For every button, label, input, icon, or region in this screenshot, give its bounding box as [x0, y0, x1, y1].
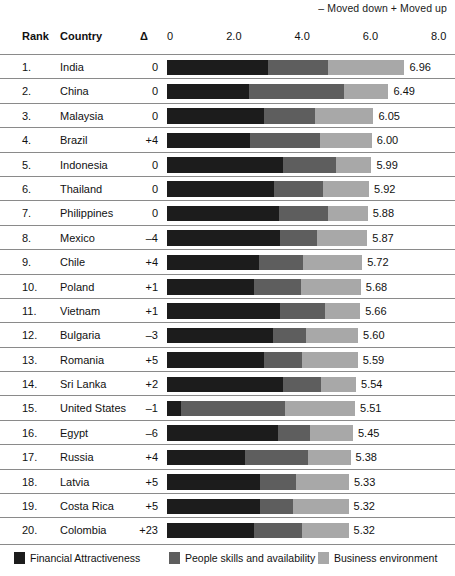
row-value: 5.45 [358, 427, 379, 439]
table-row[interactable]: 5.Indonesia05.99 [0, 152, 455, 176]
stacked-bar[interactable] [167, 352, 358, 368]
bar-segment-3 [320, 133, 372, 149]
bar-segment-2 [254, 279, 301, 295]
row-value: 5.33 [354, 476, 375, 488]
table-row[interactable]: 18.Latvia+55.33 [0, 469, 455, 493]
bar-segment-1 [167, 181, 274, 197]
stacked-bar[interactable] [167, 133, 372, 149]
row-delta: +5 [120, 476, 158, 488]
table-row[interactable]: 15.United States–15.51 [0, 395, 455, 419]
stacked-bar[interactable] [167, 523, 349, 539]
row-country: Poland [60, 281, 94, 293]
table-row[interactable]: 8.Mexico–45.87 [0, 225, 455, 249]
stacked-bar[interactable] [167, 206, 368, 222]
bar-segment-2 [278, 425, 310, 441]
bar-segment-3 [310, 425, 353, 441]
row-rank: 19. [22, 500, 37, 512]
bar-segment-1 [167, 425, 278, 441]
stacked-bar[interactable] [167, 255, 362, 271]
table-row[interactable]: 12.Bulgaria–35.60 [0, 322, 455, 346]
table-row[interactable]: 10.Poland+15.68 [0, 274, 455, 298]
legend-item-2[interactable]: People skills and availability [169, 552, 315, 564]
bar-segment-1 [167, 352, 264, 368]
table-row[interactable]: 4.Brazil+46.00 [0, 127, 455, 151]
bar-segment-1 [167, 84, 249, 100]
stacked-bar[interactable] [167, 303, 360, 319]
bar-segment-3 [308, 450, 351, 466]
row-rank: 11. [22, 305, 36, 317]
x-tick-6-0: 6.0 [363, 30, 378, 42]
table-row[interactable]: 19.Costa Rica+55.32 [0, 493, 455, 517]
stacked-bar[interactable] [167, 328, 358, 344]
bar-segment-3 [285, 401, 355, 417]
table-row[interactable]: 9.Chile+45.72 [0, 249, 455, 273]
stacked-bar[interactable] [167, 84, 388, 100]
table-row[interactable]: 2.China06.49 [0, 78, 455, 102]
stacked-bar[interactable] [167, 157, 371, 173]
bar-segment-1 [167, 474, 260, 490]
row-rank: 15. [22, 402, 37, 414]
row-rank: 2. [22, 85, 31, 97]
table-row[interactable]: 1.India06.96 [0, 54, 455, 78]
bar-segment-2 [250, 133, 320, 149]
row-rank: 10. [22, 281, 37, 293]
row-rank: 16. [22, 427, 37, 439]
row-country: Romania [60, 354, 104, 366]
table-row[interactable]: 16.Egypt–65.45 [0, 420, 455, 444]
stacked-bar[interactable] [167, 377, 356, 393]
legend-swatch-icon [169, 552, 180, 564]
row-value: 6.96 [410, 61, 431, 73]
row-country: Indonesia [60, 159, 108, 171]
bar-segment-2 [268, 60, 329, 76]
row-delta: –6 [120, 427, 158, 439]
bar-segment-3 [328, 206, 368, 222]
table-row[interactable]: 6.Thailand05.92 [0, 176, 455, 200]
row-rank: 13. [22, 354, 37, 366]
row-value: 5.92 [374, 183, 395, 195]
row-rank: 3. [22, 110, 31, 122]
bar-segment-1 [167, 523, 254, 539]
bar-segment-1 [167, 255, 259, 271]
stacked-bar[interactable] [167, 279, 361, 295]
legend-swatch-icon [14, 552, 25, 564]
stacked-bar[interactable] [167, 450, 351, 466]
row-country: Russia [60, 451, 94, 463]
row-rank: 12. [22, 329, 37, 341]
legend-item-1[interactable]: Financial Attractiveness [14, 552, 140, 564]
bar-segment-1 [167, 230, 280, 246]
table-row[interactable]: 20.Colombia+235.32 [0, 517, 455, 541]
bar-segment-2 [283, 157, 336, 173]
row-delta: +2 [120, 378, 158, 390]
chart-legend: Financial AttractivenessPeople skills an… [0, 544, 455, 570]
ranking-table: 1.India06.962.China06.493.Malaysia06.054… [0, 54, 455, 542]
stacked-bar[interactable] [167, 474, 349, 490]
stacked-bar[interactable] [167, 230, 367, 246]
bar-segment-3 [321, 377, 356, 393]
table-row[interactable]: 11.Vietnam+15.66 [0, 298, 455, 322]
stacked-bar[interactable] [167, 181, 369, 197]
legend-item-3[interactable]: Business environment [318, 552, 437, 564]
table-row[interactable]: 17.Russia+45.38 [0, 444, 455, 468]
row-rank: 17. [22, 451, 37, 463]
stacked-bar[interactable] [167, 401, 355, 417]
legend-label: Business environment [334, 552, 437, 564]
stacked-bar[interactable] [167, 499, 349, 515]
bar-segment-3 [336, 157, 371, 173]
stacked-bar[interactable] [167, 108, 373, 124]
bar-segment-1 [167, 303, 280, 319]
row-delta: 0 [120, 61, 158, 73]
stacked-bar[interactable] [167, 425, 353, 441]
bar-segment-2 [260, 474, 296, 490]
row-delta: 0 [120, 110, 158, 122]
table-row[interactable]: 14.Sri Lanka+25.54 [0, 371, 455, 395]
table-row[interactable]: 7.Philippines05.88 [0, 200, 455, 224]
stacked-bar[interactable] [167, 60, 404, 76]
bar-segment-1 [167, 157, 283, 173]
bar-segment-3 [344, 84, 389, 100]
bar-segment-3 [302, 523, 348, 539]
row-rank: 4. [22, 134, 31, 146]
row-value: 5.68 [366, 281, 387, 293]
table-row[interactable]: 13.Romania+55.59 [0, 347, 455, 371]
table-row[interactable]: 3.Malaysia06.05 [0, 103, 455, 127]
bar-segment-1 [167, 60, 268, 76]
